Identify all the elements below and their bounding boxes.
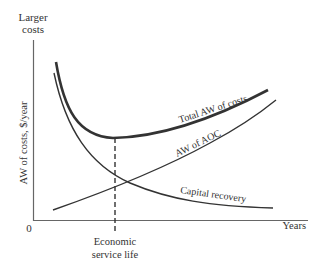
economic-service-life-diagram: Larger costs AW of costs, $/year 0 Years… bbox=[0, 0, 323, 262]
aoc-label: AW of AOC bbox=[173, 127, 223, 159]
y-axis-label: AW of costs, $/year bbox=[18, 101, 29, 184]
larger-costs-label-line2: costs bbox=[22, 23, 44, 35]
larger-costs-label-line1: Larger bbox=[18, 11, 47, 23]
origin-label: 0 bbox=[26, 222, 32, 234]
total-aw-label: Total AW of costs bbox=[177, 92, 248, 125]
marker-label-line1: Economic bbox=[94, 236, 137, 247]
marker-label-line2: service life bbox=[92, 249, 139, 260]
x-axis-label: Years bbox=[283, 220, 306, 231]
